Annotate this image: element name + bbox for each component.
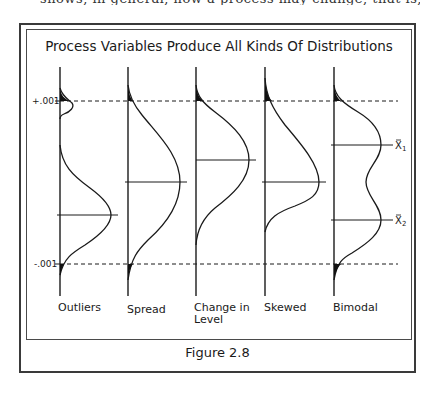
svg-text:X: X (395, 215, 402, 226)
svg-text:X: X (395, 140, 402, 151)
change-in-level-distribution (196, 67, 256, 296)
distribution-diagram: +.001 -.001 (0, 0, 438, 396)
label-outliers: Outliers (58, 302, 101, 314)
lower-limit-label: -.001 (34, 259, 57, 269)
label-spread: Spread (127, 304, 166, 316)
figure-caption: Figure 2.8 (19, 345, 416, 360)
label-change-in-level: Change in Level (194, 302, 250, 326)
spread-distribution (125, 67, 187, 296)
svg-text:2: 2 (402, 220, 406, 228)
outliers-distribution (57, 67, 118, 296)
label-bimodal: Bimodal (333, 302, 378, 314)
mean-label-x2: X 2 (395, 215, 406, 228)
label-skewed: Skewed (264, 302, 306, 314)
mean-label-x1: X 1 (395, 140, 406, 153)
label-change-line2: Level (194, 314, 250, 326)
svg-text:1: 1 (402, 145, 406, 153)
upper-limit-label: +.001 (32, 96, 60, 106)
lower-limit-line: -.001 (34, 259, 398, 269)
